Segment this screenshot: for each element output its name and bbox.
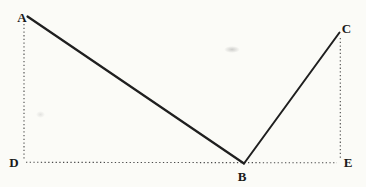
figure-canvas: ABCDE <box>0 0 366 187</box>
point-label-c: C <box>342 21 351 36</box>
figure-background <box>0 0 366 187</box>
point-label-d: D <box>9 155 18 170</box>
point-label-e: E <box>344 155 353 170</box>
point-label-b: B <box>238 169 247 184</box>
geometry-figure: ABCDE <box>0 0 366 187</box>
point-label-a: A <box>17 10 27 25</box>
